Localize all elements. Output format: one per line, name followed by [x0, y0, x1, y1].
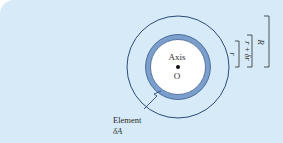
- element-symbol-label: δA: [113, 126, 123, 136]
- axis-label: Axis: [168, 52, 186, 62]
- dim-R-label: R: [256, 38, 266, 45]
- dim-r-dr-label: r + δr: [243, 41, 252, 61]
- annulus-diagram: Axis O Element δA r r + δr R: [0, 0, 283, 143]
- element-leader-line: [144, 91, 161, 109]
- origin-label: O: [174, 71, 181, 81]
- axis-point-icon: [176, 65, 180, 69]
- element-label: Element: [113, 115, 142, 125]
- dim-r-label: r: [228, 52, 237, 56]
